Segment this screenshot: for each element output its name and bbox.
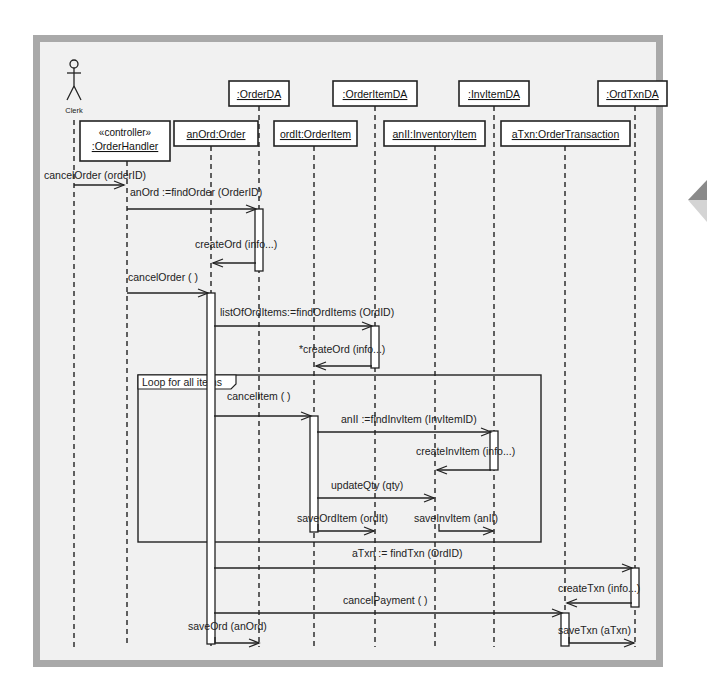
object-box-txn: aTxn:OrderTransaction — [501, 121, 630, 146]
message-label: cancelOrder (orderID) — [44, 169, 146, 181]
message-label: anOrd :=findOrder (OrderID) — [130, 186, 262, 198]
object-label: ordIt:OrderItem — [280, 128, 351, 140]
object-box-orderitem: ordIt:OrderItem — [274, 121, 357, 146]
message-label: saveTxn (aTxn) — [558, 624, 631, 636]
object-box-invitemda: :InvItemDA — [459, 81, 529, 106]
object-label: anOrd:Order — [187, 128, 246, 140]
object-label: :OrderItemDA — [343, 88, 408, 100]
message-m17: saveTxn (aTxn) — [558, 624, 634, 647]
message-label: createInvItem (info...) — [416, 445, 515, 457]
object-box-handler: «controller»:OrderHandler — [80, 121, 170, 161]
message-label: updateQty (qty) — [331, 479, 403, 491]
message-label: createOrd (info...) — [195, 238, 277, 250]
object-label: :InvItemDA — [468, 88, 520, 100]
object-label: :OrdTxnDA — [606, 88, 659, 100]
message-label: listOfOrdItems:=findOrdItems (OrdID) — [220, 306, 394, 318]
object-box-order: anOrd:Order — [174, 121, 258, 146]
message-label: *createOrd (info...) — [299, 343, 385, 355]
sequence-diagram: Loop for all items cancelOrder (orderID)… — [0, 0, 707, 699]
message-label: aTxn := findTxn (OrdID) — [352, 547, 463, 559]
message-label: saveOrd (anOrd) — [188, 620, 267, 632]
message-label: createTxn (info...) — [558, 582, 640, 594]
object-label: :OrderDA — [237, 88, 281, 100]
message-label: saveInvItem (anII) — [414, 512, 498, 524]
message-label: anII :=findInvItem (InvItemID) — [341, 413, 477, 425]
message-m8: anII :=findInvItem (InvItemID) — [317, 413, 491, 436]
stereotype-label: «controller» — [99, 127, 152, 138]
side-triangle-icon — [688, 180, 707, 200]
message-label: cancelItem ( ) — [227, 390, 291, 402]
object-box-orderitemda: :OrderItemDA — [333, 81, 417, 106]
message-label: cancelPayment ( ) — [343, 594, 428, 606]
object-label: :OrderHandler — [92, 140, 159, 152]
actor-label: Clerk — [65, 106, 83, 115]
object-box-orderda: :OrderDA — [229, 81, 289, 106]
message-label: cancelOrder ( ) — [128, 271, 198, 283]
object-label: aTxn:OrderTransaction — [512, 128, 620, 140]
object-box-ordtxnda: :OrdTxnDA — [598, 81, 667, 106]
object-label: anII:InventoryItem — [392, 128, 476, 140]
activation-bar-order — [207, 293, 215, 644]
side-triangle-icon-lower — [688, 200, 707, 222]
object-box-invitem: anII:InventoryItem — [384, 121, 485, 146]
message-label: saveOrdItem (ordIt) — [297, 512, 388, 524]
